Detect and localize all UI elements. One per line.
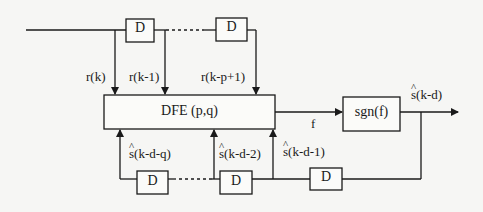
fb-delay-label-q: D (137, 173, 168, 189)
dfe-block-diagram: D D r(k) r(k-1) r(k-p+1) DFE (p,q) f sgn… (0, 0, 483, 212)
sgn-label: sgn(f) (343, 104, 400, 120)
fb-delay-label-2: D (220, 173, 252, 189)
ff-delay-label-1: D (126, 20, 154, 36)
fb-delay-label-1: D (310, 169, 342, 185)
ff-delay-label-2: D (216, 19, 247, 35)
tap-s2-arg: (k-d-2) (224, 146, 261, 161)
tap-label-rk: r(k) (86, 70, 106, 84)
tap-sq-arg: (k-d-q) (134, 146, 171, 161)
f-label: f (311, 117, 315, 131)
output-label: s(k-d) (411, 88, 442, 102)
tap-label-rkp1: r(k-p+1) (201, 70, 245, 84)
tap-s2-symbol: s (219, 147, 224, 161)
tap-label-s1: s(k-d-1) (283, 145, 325, 159)
dfe-label: DFE (p,q) (104, 103, 275, 119)
tap-s1-symbol: s (283, 145, 288, 159)
output-symbol: s (411, 88, 416, 102)
tap-label-rk1: r(k-1) (129, 70, 159, 84)
tap-label-s2: s(k-d-2) (219, 147, 261, 161)
output-arg: (k-d) (416, 87, 442, 102)
tap-label-sq: s(k-d-q) (129, 147, 171, 161)
tap-sq-symbol: s (129, 147, 134, 161)
tap-s1-arg: (k-d-1) (288, 144, 325, 159)
